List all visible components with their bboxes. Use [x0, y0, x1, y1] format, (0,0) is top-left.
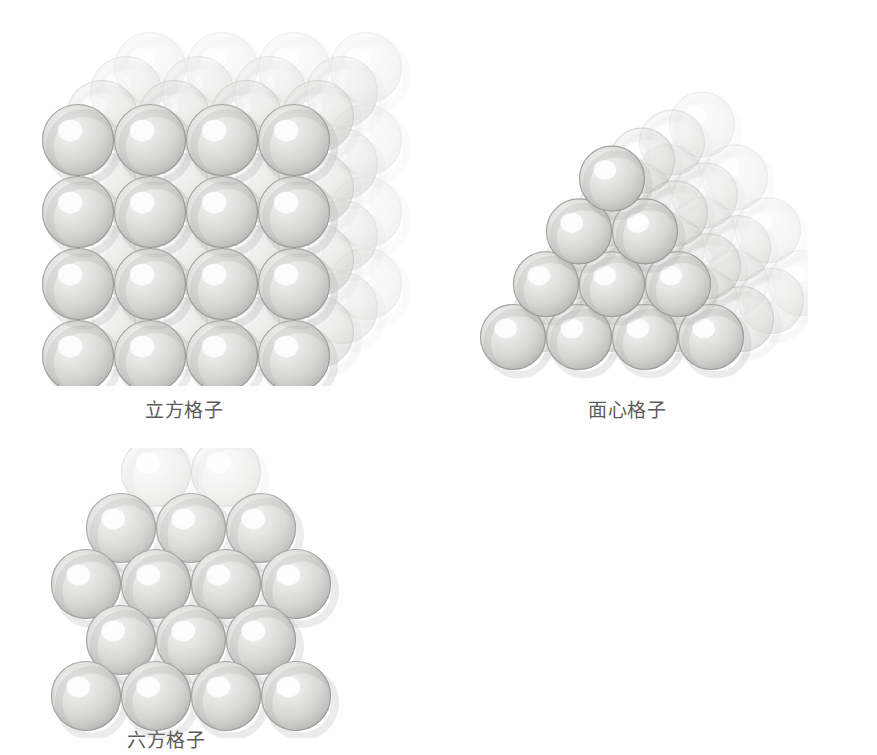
figure-hexagonal-lattice [48, 448, 348, 738]
lattice-sphere-hexagonal [261, 661, 335, 736]
figure-cubic-lattice [36, 26, 436, 386]
figure-face-centered-lattice [468, 82, 808, 382]
face-centered-lattice-illustration [468, 82, 808, 382]
figure-face-centered-lattice-label: 面心格子 [588, 398, 666, 422]
figure-hexagonal-lattice-label: 六方格子 [127, 728, 205, 752]
figure-cubic-lattice-label: 立方格子 [145, 398, 223, 422]
cubic-lattice-illustration [36, 26, 436, 386]
hexagonal-lattice-illustration [48, 448, 348, 738]
